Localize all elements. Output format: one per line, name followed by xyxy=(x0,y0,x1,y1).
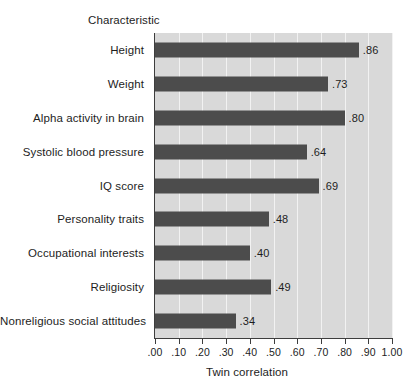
bar xyxy=(155,144,307,159)
x-axis-tick-label: .60 xyxy=(290,346,305,358)
category-label: Nonreligious social attitudes xyxy=(0,315,149,327)
chart-title: Characteristic xyxy=(88,14,160,26)
category-label: Personality traits xyxy=(0,213,149,225)
x-axis-tick-label: .70 xyxy=(313,346,328,358)
category-label: Height xyxy=(0,44,149,56)
bar-value-label: .34 xyxy=(240,315,256,327)
gridline xyxy=(392,33,393,338)
x-axis-tick xyxy=(321,339,322,344)
x-axis-tick-label: .30 xyxy=(219,346,234,358)
x-axis-title-text: Twin correlation xyxy=(206,366,288,378)
bar-value-label: .64 xyxy=(311,146,327,158)
bar xyxy=(155,246,250,261)
bar xyxy=(155,212,269,227)
bar xyxy=(155,280,271,295)
x-axis-tick-label: 1.00 xyxy=(382,346,403,358)
bar-value-label: .86 xyxy=(363,44,379,56)
x-axis-tick xyxy=(297,339,298,344)
category-label-column: HeightWeightAlpha activity in brainSysto… xyxy=(0,33,149,338)
x-axis-tick-label: .40 xyxy=(242,346,257,358)
bar xyxy=(155,76,328,91)
bar xyxy=(155,110,345,125)
category-label: Alpha activity in brain xyxy=(0,112,149,124)
x-axis-tick xyxy=(250,339,251,344)
x-axis-tick xyxy=(179,339,180,344)
x-axis-tick xyxy=(202,339,203,344)
category-label: IQ score xyxy=(0,180,149,192)
category-label: Religiosity xyxy=(0,281,149,293)
x-axis-tick xyxy=(345,339,346,344)
x-axis-tick xyxy=(274,339,275,344)
bar xyxy=(155,314,236,329)
bar-value-label: .73 xyxy=(332,78,348,90)
bar-value-label: .48 xyxy=(273,213,289,225)
x-axis-tick xyxy=(392,339,393,344)
plot-area: .86.73.80.64.69.48.40.49.34 xyxy=(155,33,392,338)
x-axis-tick xyxy=(155,339,156,344)
x-axis-title: Twin correlation xyxy=(0,366,420,378)
bar xyxy=(155,178,319,193)
twin-correlation-bar-chart: Characteristic HeightWeightAlpha activit… xyxy=(0,0,420,391)
y-axis-line xyxy=(154,33,155,339)
bar-value-label: .80 xyxy=(349,112,365,124)
category-label: Weight xyxy=(0,78,149,90)
x-axis-tick-label: .50 xyxy=(266,346,281,358)
bar-value-label: .40 xyxy=(254,247,270,259)
x-axis-tick xyxy=(226,339,227,344)
bar-value-label: .49 xyxy=(275,281,291,293)
x-axis-tick-label: .80 xyxy=(337,346,352,358)
x-axis-tick-label: .20 xyxy=(195,346,210,358)
x-axis-tick-label: .90 xyxy=(361,346,376,358)
bar xyxy=(155,42,359,57)
bar-value-label: .69 xyxy=(323,180,339,192)
x-axis-tick-label: .10 xyxy=(171,346,186,358)
category-label: Occupational interests xyxy=(0,247,149,259)
x-axis-tick xyxy=(368,339,369,344)
gridline xyxy=(368,33,369,338)
x-axis-tick-label: .00 xyxy=(148,346,163,358)
category-label: Systolic blood pressure xyxy=(0,146,149,158)
